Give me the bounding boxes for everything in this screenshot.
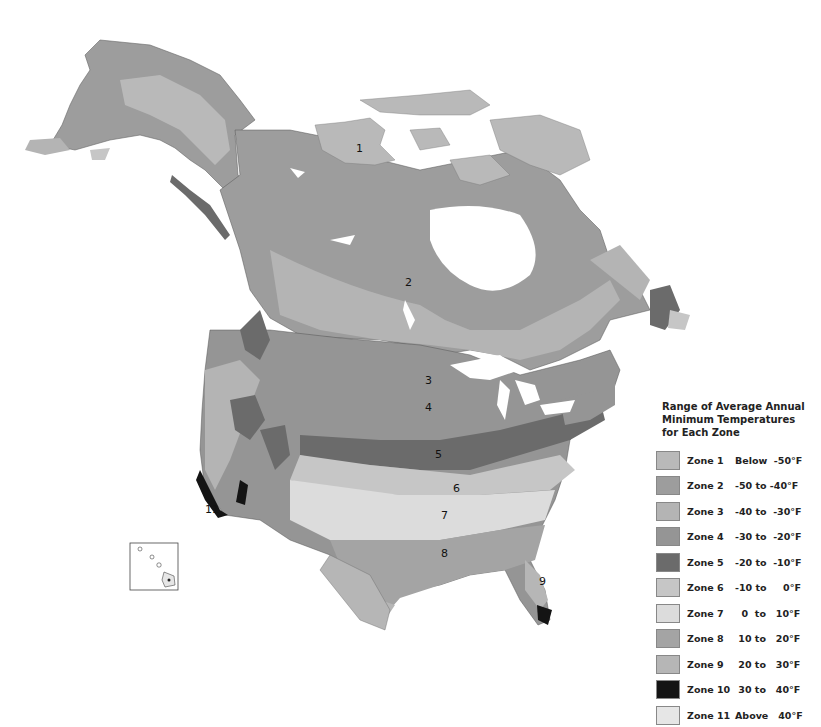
legend-row-zone-11: Zone 11Above 40°F [656,703,821,727]
swatch-zone-8 [656,629,680,648]
zone-name: Zone 10 [687,684,735,695]
zone-range: 30 to 40°F [735,684,800,695]
swatch-zone-9 [656,655,680,674]
swatch-zone-1 [656,451,680,470]
swatch-zone-4 [656,527,680,546]
zone-range: Below -50°F [735,455,802,466]
zone-label-6: 6 [453,482,460,495]
swatch-zone-11 [656,706,680,725]
hawaii-inset [130,543,178,590]
zone-range: -20 to -10°F [735,557,802,568]
zone-range: 0 to 10°F [735,608,800,619]
zone-label-1: 1 [356,142,363,155]
zone-label-2: 2 [405,276,412,289]
swatch-zone-5 [656,553,680,572]
legend-title-line-3: for Each Zone [662,426,821,439]
zone-name: Zone 5 [687,557,735,568]
zone-label-4: 4 [425,401,432,414]
zone-range: 20 to 30°F [735,659,800,670]
zone-name: Zone 2 [687,480,735,491]
zone-range: Above 40°F [735,710,803,721]
zone-name: Zone 9 [687,659,735,670]
legend-row-zone-1: Zone 1Below -50°F [656,448,821,472]
zone-label-11: 11 [205,503,219,516]
zone-label-8: 8 [441,547,448,560]
legend-row-zone-8: Zone 8 10 to 20°F [656,627,821,651]
zone-range: -50 to -40°F [735,480,798,491]
zone-name: Zone 11 [687,710,735,721]
legend-title: Range of Average Annual Minimum Temperat… [662,400,821,439]
zone-label-3: 3 [425,374,432,387]
legend: Range of Average Annual Minimum Temperat… [656,400,821,727]
zone-range: -30 to -20°F [735,531,802,542]
swatch-zone-10 [656,680,680,699]
legend-row-zone-4: Zone 4-30 to -20°F [656,525,821,549]
legend-title-line-2: Minimum Temperatures [662,413,821,426]
legend-row-zone-2: Zone 2-50 to -40°F [656,474,821,498]
legend-row-zone-9: Zone 9 20 to 30°F [656,652,821,676]
zone-range: 10 to 20°F [735,633,800,644]
zone-label-7: 7 [441,509,448,522]
zone-name: Zone 1 [687,455,735,466]
zone-name: Zone 8 [687,633,735,644]
swatch-zone-3 [656,502,680,521]
legend-row-zone-10: Zone 10 30 to 40°F [656,678,821,702]
legend-rows: Zone 1Below -50°F Zone 2-50 to -40°F Zon… [656,448,821,727]
zone-name: Zone 7 [687,608,735,619]
zone-label-9: 9 [539,575,546,588]
legend-row-zone-3: Zone 3-40 to -30°F [656,499,821,523]
zone-name: Zone 4 [687,531,735,542]
legend-row-zone-6: Zone 6-10 to 0°F [656,576,821,600]
swatch-zone-2 [656,476,680,495]
alaska-region [25,40,255,240]
zone-range: -40 to -30°F [735,506,802,517]
zone-range: -10 to 0°F [735,582,801,593]
swatch-zone-6 [656,578,680,597]
zone-label-5: 5 [435,448,442,461]
zone-name: Zone 3 [687,506,735,517]
legend-title-line-1: Range of Average Annual [662,400,821,413]
legend-row-zone-7: Zone 7 0 to 10°F [656,601,821,625]
zone-name: Zone 6 [687,582,735,593]
swatch-zone-7 [656,604,680,623]
legend-row-zone-5: Zone 5-20 to -10°F [656,550,821,574]
